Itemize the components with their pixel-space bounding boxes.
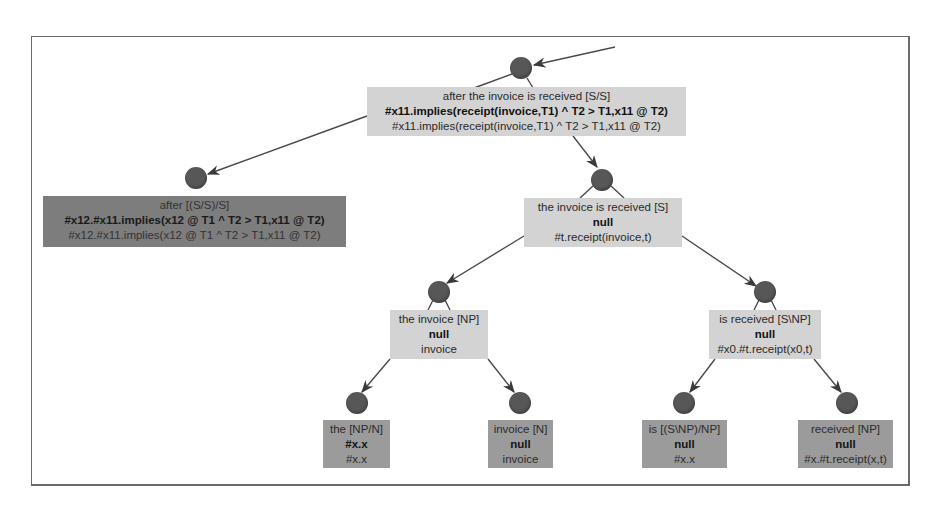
node-is-label: is [(S\NP)/NP]	[646, 422, 723, 437]
node-the-label: the [NP/N]	[327, 422, 386, 437]
node-clause-bold: null	[528, 215, 678, 230]
node-received-bold: null	[802, 437, 889, 452]
node-received-label: received [NP]	[802, 422, 889, 437]
edge-clause-vp	[682, 236, 756, 286]
node-vp-semantics: #x0.#t.receipt(x0,t)	[713, 342, 817, 357]
node-root-label: after the invoice is received [S/S]	[371, 89, 682, 104]
edge-np-invoice	[488, 359, 514, 392]
node-is[interactable]: is [(S\NP)/NP] null #x.x	[642, 420, 727, 468]
node-the-bold: #x.x	[327, 437, 386, 452]
node-clause-label: the invoice is received [S]	[528, 200, 678, 215]
node-root[interactable]: after the invoice is received [S/S] #x11…	[367, 87, 686, 136]
node-is-bold: null	[646, 437, 723, 452]
node-clause[interactable]: the invoice is received [S] null #t.rece…	[524, 198, 682, 247]
node-the-semantics: #x.x	[327, 452, 386, 467]
edge-clause-np	[447, 236, 524, 283]
node-dot-is[interactable]	[673, 392, 695, 414]
node-invoice-semantics: invoice	[492, 452, 549, 467]
node-np-bold: null	[394, 327, 484, 342]
node-received-semantics: #x.#t.receipt(x,t)	[802, 452, 889, 467]
node-root-bold: #x11.implies(receipt(invoice,T1) ^ T2 > …	[371, 104, 682, 119]
node-vp[interactable]: is received [S\NP] null #x0.#t.receipt(x…	[709, 310, 821, 359]
edge-np-the	[362, 359, 390, 392]
node-after[interactable]: after [(S/S)/S] #x12.#x11.implies(x12 @ …	[43, 196, 346, 247]
node-after-semantics: #x12.#x11.implies(x12 @ T1 ^ T2 > T1,x11…	[47, 228, 342, 243]
node-dot-np[interactable]	[428, 281, 450, 303]
node-dot-received[interactable]	[836, 392, 858, 414]
node-root-semantics: #x11.implies(receipt(invoice,T1) ^ T2 > …	[371, 119, 682, 134]
node-dot-clause[interactable]	[591, 169, 613, 191]
node-dot-root[interactable]	[510, 57, 532, 79]
node-vp-bold: null	[713, 327, 817, 342]
edge-root-clause	[573, 136, 597, 167]
edge-root-after	[208, 116, 367, 174]
node-dot-the[interactable]	[346, 392, 368, 414]
node-after-label: after [(S/S)/S]	[47, 198, 342, 213]
node-dot-after[interactable]	[185, 167, 207, 189]
node-invoice-label: invoice [N]	[492, 422, 549, 437]
node-np-semantics: invoice	[394, 342, 484, 357]
node-dot-vp[interactable]	[754, 281, 776, 303]
node-clause-semantics: #t.receipt(invoice,t)	[528, 230, 678, 245]
edge-external-root	[534, 47, 615, 65]
node-invoice[interactable]: invoice [N] null invoice	[488, 420, 553, 468]
edge-vp-received	[814, 359, 841, 392]
node-np[interactable]: the invoice [NP] null invoice	[390, 310, 488, 359]
node-is-semantics: #x.x	[646, 452, 723, 467]
node-received[interactable]: received [NP] null #x.#t.receipt(x,t)	[798, 420, 893, 468]
node-vp-label: is received [S\NP]	[713, 312, 817, 327]
node-the[interactable]: the [NP/N] #x.x #x.x	[323, 420, 390, 468]
edge-vp-is	[690, 359, 715, 392]
node-dot-invoice[interactable]	[509, 392, 531, 414]
node-invoice-bold: null	[492, 437, 549, 452]
node-np-label: the invoice [NP]	[394, 312, 484, 327]
node-after-bold: #x12.#x11.implies(x12 @ T1 ^ T2 > T1,x11…	[47, 213, 342, 228]
